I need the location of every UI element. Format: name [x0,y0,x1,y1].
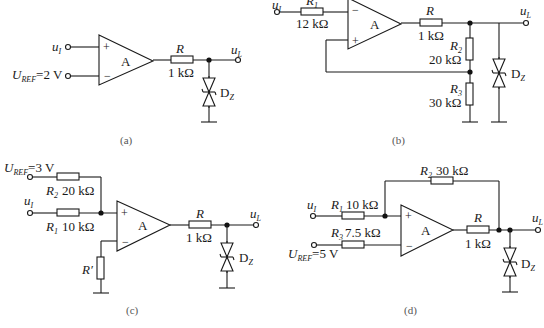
input-label: uI [52,39,62,56]
resistor-R3 [342,241,364,248]
input-terminal [28,211,33,216]
r3-label: R3 [330,225,343,242]
resistor-R2 [431,177,453,184]
output-label: uL [532,210,544,227]
resistor-R1 [57,209,79,216]
panel-d: R2 30 kΩ uI R1 10 kΩ R3 7.5 kΩ UREF=5 V … [288,163,544,317]
resistor-R3 [466,83,473,105]
output-label: uL [520,3,532,20]
diode-label: DZ [239,250,253,267]
junction-dot [98,210,103,215]
diode-label: DZ [220,85,234,102]
r2-value: 30 kΩ [436,163,468,178]
plus-sign: + [352,34,359,48]
caption-c: (c) [126,304,139,317]
r1-label: R1 [45,219,58,236]
resistor-R-label: R [425,3,434,18]
resistor-R [171,56,193,63]
zener-diode-icon [220,241,234,273]
resistor-R-value: 1 kΩ [186,230,212,245]
resistor-Rprime [97,257,104,279]
input-terminal [311,214,316,219]
input-label: uI [307,197,317,214]
panel-a: uI UREF=2 V + − A R 1 kΩ uL DZ (a) [12,35,243,147]
minus-sign: − [122,235,129,249]
resistor-R [189,221,211,228]
ref-label: UREF=2 V [12,67,63,84]
r2-value: 20 kΩ [62,183,94,198]
panel-c: UREF=3 V R2 20 kΩ uI R1 10 kΩ + − A R′ R… [4,160,262,317]
resistor-R1 [301,8,323,15]
ref-terminal [66,74,71,79]
opamp-label: A [138,218,148,233]
rprime-label: R′ [81,262,93,277]
panel-b: uI R1 12 kΩ − + A R 1 kΩ uL R2 20 kΩ R3 [272,0,532,147]
resistor-R-value: 1 kΩ [418,28,444,43]
opamp-label: A [421,223,431,238]
resistor-R-label: R [473,210,482,225]
resistor-R-label: R [195,206,204,221]
output-terminal [524,21,529,26]
r3-value: 30 kΩ [429,95,461,110]
r2-label: R2 [419,163,432,180]
opamp-label: A [121,54,131,69]
r2-value: 20 kΩ [429,52,461,67]
input-terminal [66,45,71,50]
minus-sign: − [104,69,111,83]
circuit-figure: uI UREF=2 V + − A R 1 kΩ uL DZ (a) uI R1… [0,0,544,328]
plus-sign: + [405,209,412,223]
resistor-R2 [57,173,79,180]
ref-label: UREF=5 V [288,246,339,263]
output-label: uL [231,42,243,59]
resistor-R-label: R [175,41,184,56]
resistor-R [467,226,489,233]
resistor-R-value: 1 kΩ [168,65,194,80]
zener-diode-icon [503,246,517,278]
r1-value: 10 kΩ [346,197,378,212]
input-label: uI [24,193,34,210]
caption-b: (b) [392,134,405,147]
output-label: uL [250,206,262,223]
minus-sign: − [352,3,359,17]
junction-dot [496,227,501,232]
output-terminal [536,228,541,233]
caption-d: (d) [404,304,417,317]
caption-a: (a) [120,134,133,147]
zener-diode-icon [202,76,216,108]
output-terminal [254,223,259,228]
ref-terminal [28,175,33,180]
junction-dot [467,69,472,74]
r1-label: R1 [330,197,343,214]
diode-label: DZ [521,256,535,273]
r2-label: R2 [45,183,58,200]
plus-sign: + [103,40,110,54]
input-terminal [275,10,280,15]
zener-diode-icon [492,57,506,89]
resistor-R-value: 1 kΩ [465,236,491,251]
r1-value: 12 kΩ [296,16,328,31]
resistor-R2 [466,38,473,60]
resistor-R1 [342,212,364,219]
minus-sign: − [406,239,413,253]
plus-sign: + [121,206,128,220]
r3-value: 7.5 kΩ [345,225,381,240]
diode-label: DZ [511,66,525,83]
opamp-label: A [370,17,380,32]
resistor-R [420,19,442,26]
junction-dot [382,213,387,218]
r1-value: 10 kΩ [62,219,94,234]
